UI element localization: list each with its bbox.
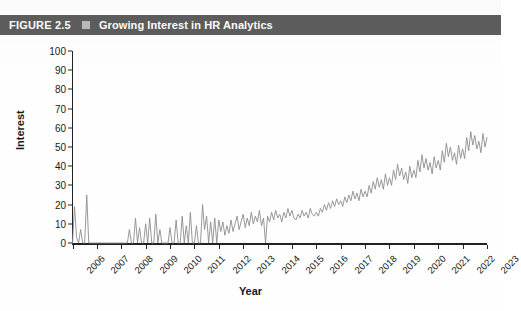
x-axis-title: Year [0, 285, 501, 297]
chart-plot-area: Interest 0102030405060708090100 20062007… [0, 35, 501, 311]
figure-banner: FIGURE 2.5 Growing Interest in HR Analyt… [0, 15, 301, 35]
series-canvas [0, 35, 501, 311]
interest-series-line [73, 132, 488, 243]
figure-title: Growing Interest in HR Analytics [99, 19, 273, 31]
x-axis-tick-label: 2023 [498, 253, 521, 276]
figure-banner-extension [301, 15, 501, 35]
figure-number-label: FIGURE 2.5 [9, 19, 71, 31]
square-marker-icon [82, 21, 90, 29]
